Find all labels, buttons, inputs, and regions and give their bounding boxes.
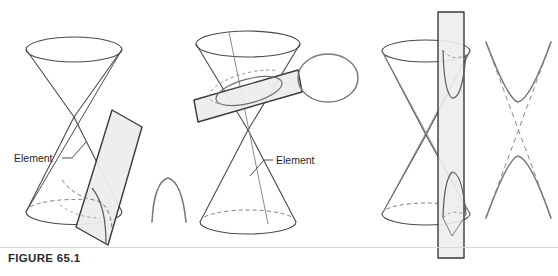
element-label-ellipse: Element xyxy=(276,154,315,166)
cone-element-line-2 xyxy=(229,32,268,224)
cone-upper-right-edge xyxy=(74,50,122,118)
caption-divider-rule xyxy=(0,247,558,248)
element-label-parabola: Element xyxy=(14,152,53,164)
cone-top-rim-ellipse xyxy=(26,37,122,62)
cone-lower-right-edge-2 xyxy=(248,130,296,222)
hyperbola-branch-upper xyxy=(486,42,551,102)
parabola-curve xyxy=(152,178,186,222)
panel-hyperbola xyxy=(382,12,551,258)
cone-top-rim-ellipse-2 xyxy=(196,31,300,57)
cutting-plane xyxy=(76,110,142,245)
cutting-plane-2 xyxy=(194,70,302,122)
hyperbola-branch-lower xyxy=(486,156,551,218)
ellipse-curve xyxy=(298,54,358,102)
cutting-plane-3 xyxy=(438,12,464,258)
conic-sections-illustration: Element Element xyxy=(0,0,558,276)
figure-caption: FIGURE 65.1 xyxy=(8,252,80,264)
figure-65-1: Element Element xyxy=(0,0,558,276)
element-leader-line-ellipse xyxy=(250,160,273,176)
cone-lower-left-edge-2 xyxy=(200,130,248,222)
cone-lower-left-edge xyxy=(26,117,74,212)
panel-ellipse: Element xyxy=(194,31,358,234)
cone-upper-left-edge xyxy=(26,50,74,118)
cone-base-rim-back-2 xyxy=(200,210,296,222)
panel-parabola: Element xyxy=(14,37,186,245)
cone-base-rim-front-2 xyxy=(200,222,296,234)
